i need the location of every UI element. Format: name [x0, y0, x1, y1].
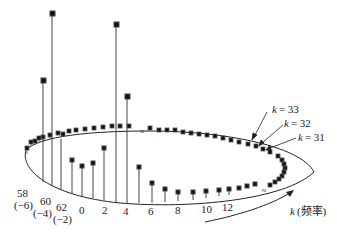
- stem-plot-3d: ≈ ≈ k= 33 k= 32 k= 31 k(频率) 58: [0, 0, 337, 236]
- tick-10: 10: [201, 203, 213, 215]
- break-mark: ≈: [262, 186, 267, 195]
- annotation-k33: k= 33: [272, 103, 299, 115]
- tick-2: 2: [102, 204, 108, 216]
- tick-8: 8: [175, 204, 181, 216]
- tick-labels: 58 (−6) 60 (−4) 62 (−2) 0 2 4 6 8 10 12: [14, 187, 233, 226]
- tick-58-alias: (−6): [14, 199, 33, 212]
- annotation-k32: k= 32: [284, 117, 311, 129]
- tick-0: 0: [79, 204, 85, 216]
- tick-58: 58: [17, 187, 29, 199]
- axis-label-k: k(频率): [290, 204, 327, 218]
- back-markers: [25, 124, 287, 187]
- tick-60: 60: [40, 195, 52, 207]
- frequency-direction-arrow: [205, 193, 290, 222]
- ellipse-front-arc: [25, 150, 314, 205]
- annotation-k31: k= 31: [298, 131, 325, 143]
- tick-62: 62: [56, 201, 67, 213]
- tick-60-alias: (−4): [33, 207, 52, 220]
- arrowhead-icon: [286, 190, 294, 197]
- tick-6: 6: [148, 205, 154, 217]
- tick-62-alias: (−2): [53, 213, 72, 226]
- front-stems: [41, 11, 257, 203]
- annotation-arrows: [252, 112, 296, 150]
- tick-12: 12: [222, 201, 233, 213]
- break-mark: ≈: [140, 127, 145, 136]
- tick-4: 4: [123, 205, 129, 217]
